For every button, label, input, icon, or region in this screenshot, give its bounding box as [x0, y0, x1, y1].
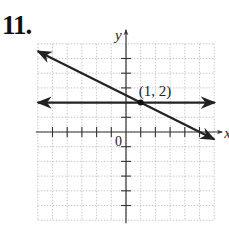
coordinate-plane: xy0(1, 2) [0, 0, 229, 234]
x-axis-label: x [223, 125, 229, 141]
intersection-point [138, 100, 144, 106]
origin-label: 0 [115, 134, 122, 149]
point-label: (1, 2) [139, 83, 172, 100]
y-axis-label: y [113, 27, 122, 43]
